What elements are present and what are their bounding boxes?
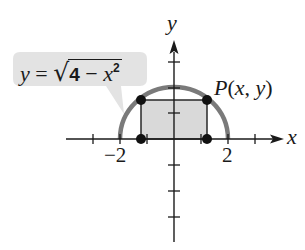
point-name: P bbox=[214, 75, 227, 100]
y-axis bbox=[168, 40, 180, 242]
point-y: y bbox=[256, 75, 266, 100]
x-axis-label: x bbox=[287, 124, 297, 150]
point-upper-right-P bbox=[202, 95, 212, 105]
radicand-exponent: 2 bbox=[113, 61, 120, 75]
point-close-paren: ) bbox=[265, 75, 272, 100]
diagram-canvas bbox=[0, 0, 305, 250]
x-tick-label-neg2: −2 bbox=[104, 143, 126, 168]
point-upper-left bbox=[136, 95, 146, 105]
radicand-constant: 4 bbox=[69, 64, 80, 85]
equation-label: y = √4 − x2 bbox=[20, 55, 122, 88]
point-comma: , bbox=[245, 75, 256, 100]
point-lower-left bbox=[136, 134, 146, 144]
radicand-variable: x bbox=[103, 61, 113, 86]
point-open-paren: ( bbox=[227, 75, 234, 100]
radicand-minus: − bbox=[85, 61, 97, 86]
y-axis-label: y bbox=[167, 10, 177, 36]
y-axis-arrow-icon bbox=[170, 40, 179, 54]
equation-lhs: y bbox=[20, 61, 30, 86]
equation-radicand: 4 − x2 bbox=[68, 59, 121, 86]
point-lower-right bbox=[202, 134, 212, 144]
x-tick-label-2: 2 bbox=[222, 143, 233, 168]
semicircle-rectangle-diagram: y = √4 − x2 y x −2 2 P(x, y) bbox=[0, 0, 305, 250]
point-x: x bbox=[235, 75, 245, 100]
square-root-icon: √ bbox=[53, 58, 69, 87]
equation-equals: = bbox=[35, 61, 47, 86]
point-P-label: P(x, y) bbox=[214, 75, 273, 101]
